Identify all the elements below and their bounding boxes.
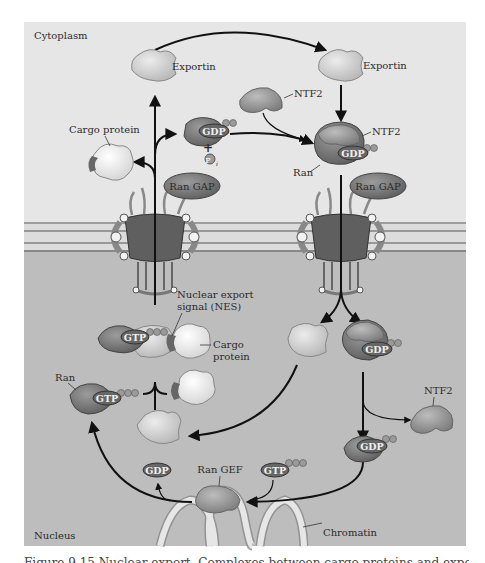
nes-label-line1: Nuclear export: [177, 289, 254, 300]
gdp-pill-cyto: GDP: [199, 124, 229, 138]
svg-text:GTP: GTP: [264, 465, 286, 476]
nes-label-line2: signal (NES): [177, 301, 241, 312]
gdp-pill-nuc-complex: GDP: [362, 342, 392, 356]
ntf2-top-label: NTF2: [294, 88, 323, 99]
nucleus-label: Nucleus: [34, 530, 75, 541]
gdp-pill-complex: GDP: [338, 146, 368, 160]
ran-gef-label: Ran GEF: [197, 464, 243, 475]
gdp-pill-nuc-ran: GDP: [357, 439, 387, 453]
figure-caption: Figure 9.15 Nuclear export. Complexes be…: [24, 553, 469, 563]
exportin-right-label: Exportin: [363, 60, 407, 71]
nuclear-export-diagram: GDP GDP GTP GDP GTP GDP GDP GTP Cytoplas…: [0, 0, 485, 563]
gtp-pill-nes: GTP: [121, 330, 149, 344]
exportin-nucleus-1: [288, 323, 328, 356]
svg-text:GDP: GDP: [360, 441, 384, 452]
ran-gap-right-label: Ran GAP: [355, 181, 401, 192]
cargo-nuc-label-line2: protein: [213, 351, 250, 362]
ran-gap-left-label: Ran GAP: [169, 181, 215, 192]
pi-label: P: [205, 156, 211, 165]
svg-text:GDP: GDP: [145, 465, 169, 476]
svg-text:GTP: GTP: [96, 393, 118, 404]
ran-complex-label: Ran: [293, 167, 314, 178]
gtp-pill-free: GTP: [261, 463, 289, 477]
svg-text:GDP: GDP: [341, 148, 365, 159]
ntf2-complex-label: NTF2: [372, 126, 401, 137]
svg-text:GDP: GDP: [202, 126, 226, 137]
exportin-left-label: Exportin: [172, 61, 216, 72]
cargo-cyto-label: Cargo protein: [69, 124, 140, 135]
ran-nuc-label: Ran: [55, 372, 76, 383]
gtp-pill-ran: GTP: [93, 391, 121, 405]
ntf2-nuc-label: NTF2: [424, 385, 453, 396]
plus-sign: +: [203, 141, 213, 155]
cargo-cyto-shape: [92, 144, 133, 180]
cargo-nes-complex-shape: [172, 324, 210, 359]
cytoplasm-label: Cytoplasm: [34, 30, 88, 41]
nuclear-envelope: [24, 223, 466, 251]
cargo-nuc-label-line1: Cargo: [213, 339, 244, 350]
svg-text:GDP: GDP: [365, 344, 389, 355]
cargo-nucleus-shape: [178, 370, 215, 405]
svg-text:GTP: GTP: [124, 332, 146, 343]
pi-subscript: i: [216, 160, 218, 167]
gdp-pill-free: GDP: [143, 463, 171, 477]
chromatin-label: Chromatin: [323, 527, 378, 538]
